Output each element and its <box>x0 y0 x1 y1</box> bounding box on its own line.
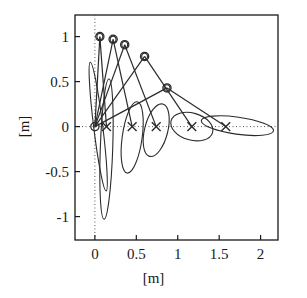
y-tick-label: -0.5 <box>31 163 69 180</box>
x-axis-label: [m] <box>0 270 307 287</box>
y-tick-label: 0.5 <box>31 73 69 90</box>
y-axis-label: [m] <box>16 97 33 157</box>
x-tick-label: 0.5 <box>127 246 146 263</box>
y-tick-label: 1 <box>31 28 69 45</box>
y-tick-label: 0 <box>31 118 69 135</box>
x-tick-label: 2 <box>257 246 265 263</box>
y-tick-label: -1 <box>31 208 69 225</box>
x-tick-label: 1 <box>174 246 182 263</box>
chart-figure: [m] [m] 00.511.52 10.50-0.5-1 <box>0 0 307 298</box>
x-tick-label: 1.5 <box>210 246 229 263</box>
x-tick-label: 0 <box>91 246 99 263</box>
